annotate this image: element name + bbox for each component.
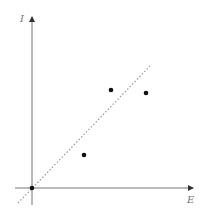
scatter-chart: I E — [0, 0, 210, 219]
data-point — [82, 153, 87, 158]
y-axis-label: I — [19, 13, 25, 24]
data-point — [30, 186, 35, 191]
x-axis-label: E — [186, 194, 195, 205]
data-points — [30, 88, 149, 191]
data-point — [109, 88, 114, 93]
axes — [15, 17, 193, 205]
data-point — [144, 91, 149, 96]
dotted-fit-line — [18, 66, 150, 203]
trend-line — [18, 66, 150, 203]
